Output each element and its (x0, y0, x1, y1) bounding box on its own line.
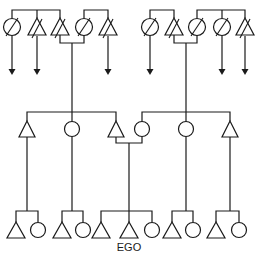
deceased-female-icon (4, 18, 21, 36)
deceased-male-icon (165, 18, 183, 38)
female-icon (179, 122, 194, 137)
kinship-diagram: EGO (0, 0, 257, 254)
marriage-line (174, 35, 197, 43)
marriage-line (60, 35, 84, 43)
parent-generation (19, 112, 238, 143)
arrow-down-icon (219, 69, 226, 75)
arrow-down-icon (105, 69, 112, 75)
male-icon (207, 222, 225, 238)
sibling-bar (150, 10, 174, 18)
deceased-male-icon (236, 18, 254, 38)
arrow-down-icon (9, 69, 16, 75)
sibling-bar (197, 10, 245, 18)
deceased-male-icon (51, 18, 69, 38)
deceased-male-icon (99, 18, 117, 38)
ego-male-icon (120, 222, 138, 238)
grandparent-generation (4, 10, 255, 75)
sibling-bar (84, 10, 108, 18)
deceased-male-icon (28, 18, 46, 38)
arrow-down-icon (147, 69, 154, 75)
deceased-female-icon (189, 18, 206, 36)
male-icon (7, 222, 25, 238)
female-icon (186, 223, 201, 238)
female-icon (135, 122, 150, 137)
female-icon (232, 223, 247, 238)
deceased-female-icon (142, 18, 159, 36)
female-icon (65, 122, 80, 137)
deceased-female-icon (214, 18, 231, 36)
sibling-bar (62, 211, 83, 222)
sibling-bar (172, 211, 193, 222)
sibling-bar (12, 10, 60, 18)
male-icon (19, 121, 35, 137)
descent-arrows (9, 36, 249, 75)
male-icon (108, 121, 124, 137)
ego-generation: EGO (7, 211, 247, 253)
sibling-bar (216, 211, 239, 222)
female-icon (145, 223, 160, 238)
female-icon (31, 223, 46, 238)
male-icon (92, 222, 110, 238)
arrow-down-icon (242, 69, 249, 75)
sibling-bar (16, 211, 38, 222)
ego-label: EGO (117, 241, 142, 253)
sibling-bar (101, 211, 152, 222)
male-icon (163, 222, 181, 238)
deceased-female-icon (76, 18, 93, 36)
male-icon (222, 121, 238, 137)
marriage-line (116, 137, 142, 143)
male-icon (53, 222, 71, 238)
arrow-down-icon (34, 69, 41, 75)
female-icon (76, 223, 91, 238)
